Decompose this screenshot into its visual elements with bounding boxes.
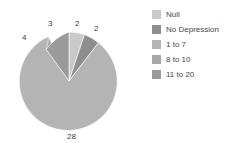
legend-swatch-no-depression-icon [152,25,161,34]
slice-label-null: 2 [75,20,79,28]
pie-plot-area: 2 2 28 4 3 [0,0,148,149]
slice-label-11-to-20: 3 [48,20,52,28]
legend-label-no-depression: No Depression [166,25,219,34]
legend-swatch-null-icon [152,10,161,19]
slice-label-no-depression: 2 [94,25,98,33]
legend-swatch-11-to-20-icon [152,70,161,79]
legend-swatch-1-to-7-icon [152,40,161,49]
legend-swatch-8-to-10-icon [152,55,161,64]
slice-label-1-to-7: 28 [67,133,76,141]
slice-label-8-to-10: 4 [22,34,26,42]
legend-label-8-to-10: 8 to 10 [166,55,190,64]
legend-item-no-depression[interactable]: No Depression [152,24,240,35]
legend-item-null[interactable]: Null [152,9,240,20]
legend-item-1-to-7[interactable]: 1 to 7 [152,39,240,50]
pie-slices-svg [0,0,148,149]
pie-chart-figure: 2 2 28 4 3 Null No Depression 1 to 7 8 t… [0,0,240,149]
legend-item-8-to-10[interactable]: 8 to 10 [152,54,240,65]
legend-label-11-to-20: 11 to 20 [166,70,194,79]
chart-legend: Null No Depression 1 to 7 8 to 10 11 to … [152,9,240,84]
legend-item-11-to-20[interactable]: 11 to 20 [152,69,240,80]
legend-label-null: Null [166,10,180,19]
legend-label-1-to-7: 1 to 7 [166,40,186,49]
